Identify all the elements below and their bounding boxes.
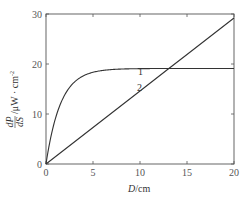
- series-2-label: 2: [137, 82, 142, 93]
- x-tick-label: 15: [182, 167, 192, 178]
- svg-text:/μW · cm-2: /μW · cm-2: [9, 71, 20, 114]
- x-axis-label: D/cm: [127, 183, 150, 194]
- x-tick-label: 10: [135, 167, 145, 178]
- y-axis-label: dP dS /μW · cm-2: [4, 71, 25, 128]
- y-tick-label: 0: [37, 159, 42, 170]
- series-1-label: 1: [138, 66, 143, 77]
- y-tick-label: 20: [32, 59, 42, 70]
- chart: 05101520 0102030 1 2 D/cm dP dS /μW · cm…: [0, 0, 248, 197]
- x-tick-labels: 05101520: [44, 167, 240, 178]
- x-tick-label: 0: [44, 167, 49, 178]
- y-tick-label: 10: [32, 109, 42, 120]
- svg-text:dS: dS: [14, 117, 25, 127]
- y-tick-label: 30: [32, 9, 42, 20]
- x-tick-label: 5: [91, 167, 96, 178]
- x-tick-label: 20: [229, 167, 239, 178]
- y-tick-labels: 0102030: [32, 9, 42, 170]
